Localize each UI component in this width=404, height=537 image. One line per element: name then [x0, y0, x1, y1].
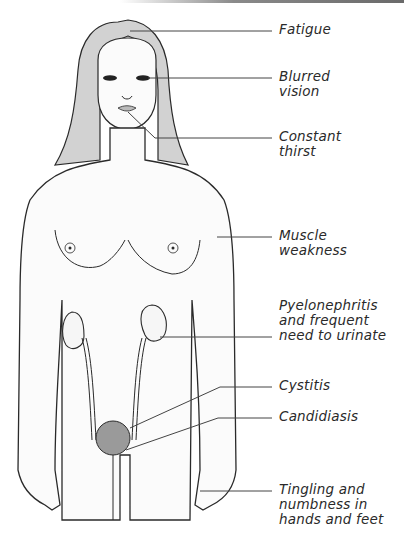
- right-kidney: [141, 305, 166, 341]
- label-muscle-weakness: Muscle weakness: [279, 228, 347, 258]
- label-pyelonephritis: Pyelonephritis and frequent need to urin…: [279, 298, 386, 343]
- right-eye: [136, 75, 150, 81]
- face: [98, 38, 156, 130]
- torso: [18, 128, 236, 520]
- label-cystitis: Cystitis: [279, 378, 330, 393]
- label-blurred-vision: Blurred vision: [279, 69, 330, 99]
- label-tingling: Tingling and numbness in hands and feet: [279, 482, 383, 527]
- left-kidney: [63, 312, 84, 348]
- body-illustration: [0, 0, 404, 537]
- label-fatigue: Fatigue: [279, 22, 331, 37]
- bladder: [96, 421, 130, 455]
- left-eye: [103, 75, 117, 81]
- label-candidiasis: Candidiasis: [279, 409, 358, 424]
- label-constant-thirst: Constant thirst: [279, 129, 341, 159]
